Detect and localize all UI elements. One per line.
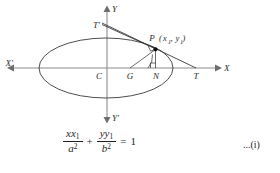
x-axis-positive-arrow-icon <box>215 64 222 71</box>
point-label-Tprime: T' <box>93 20 101 30</box>
y-axis-positive-label: Y <box>112 4 118 14</box>
term2-denominator: b2 <box>99 142 114 154</box>
point-P-coordinates: ( x 1 , y 1 ) <box>159 33 186 45</box>
ellipse-tangent-figure: X X' Y Y' T' C G N T P ( x 1 , y 1 ) xx1… <box>0 0 280 173</box>
equation-equals-sign: = <box>120 135 126 147</box>
x-axis-positive-label: X <box>223 63 230 73</box>
x-axis-negative-label: X' <box>5 58 14 68</box>
y-axis-negative-arrow-icon <box>104 117 111 124</box>
point-label-T: T <box>193 71 199 81</box>
point-label-C: C <box>96 71 103 81</box>
y-axis-group <box>104 6 111 124</box>
coord-x-var: x <box>162 33 167 43</box>
segment-G-to-P <box>130 50 156 69</box>
y-axis-negative-label: Y' <box>112 113 120 123</box>
equation-term-1: xx1 a2 <box>63 127 83 155</box>
equation-operator-plus: + <box>87 135 93 147</box>
coord-y-var: y <box>175 33 180 43</box>
term1-num-var: xx <box>66 127 76 139</box>
diagram-canvas: X X' Y Y' T' C G N T P ( x 1 , y 1 ) <box>0 0 280 173</box>
term2-den-exponent: 2 <box>107 142 111 151</box>
tangent-equation: xx1 a2 + yy1 b2 = 1 <box>62 127 136 155</box>
equation-right-hand-side: 1 <box>130 135 136 147</box>
paren-close: ) <box>182 33 186 43</box>
point-label-P: P <box>148 33 155 43</box>
term1-numerator: xx1 <box>63 127 83 141</box>
point-P-marker <box>153 47 157 51</box>
point-label-G: G <box>127 71 134 81</box>
term1-num-subscript: 1 <box>76 132 80 141</box>
term2-numerator: yy1 <box>97 127 117 141</box>
tangent-segment-Tprime-to-P <box>102 25 156 50</box>
term2-num-subscript: 1 <box>109 132 113 141</box>
equation-reference-number: ...(i) <box>243 139 260 150</box>
term1-den-exponent: 2 <box>74 142 78 151</box>
term1-denominator: a2 <box>65 142 80 154</box>
y-axis-positive-arrow-icon <box>104 6 111 13</box>
coord-comma: , <box>171 33 173 43</box>
equation-term-2: yy1 b2 <box>97 127 117 155</box>
point-label-N: N <box>152 71 160 81</box>
